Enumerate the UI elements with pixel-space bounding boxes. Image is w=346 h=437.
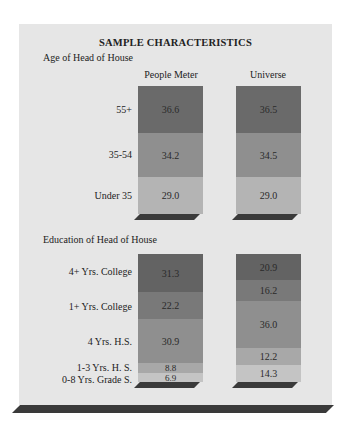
edu-segment-4plus-college: 31.3 bbox=[138, 254, 203, 292]
edu-label-1plus-college: 1+ Yrs. College bbox=[69, 301, 132, 312]
age-segment-under35: 29.0 bbox=[138, 177, 203, 214]
edu-segment-4plus-college: 20.9 bbox=[236, 254, 301, 280]
edu-label-1-3-yrs-hs: 1-3 Yrs. H. S. bbox=[77, 362, 132, 373]
edu-bar-universe: 20.9 16.2 36.0 12.2 14.3 bbox=[236, 254, 301, 382]
age-section-heading: Age of Head of House bbox=[43, 52, 133, 63]
edu-segment-1plus-college: 22.2 bbox=[138, 292, 203, 319]
age-segment-under35: 29.0 bbox=[236, 177, 301, 214]
age-segment-35-54: 34.2 bbox=[138, 133, 203, 177]
age-label-55plus: 55+ bbox=[116, 104, 132, 115]
edu-bar-people-meter: 31.3 22.2 30.9 8.8 6.9 bbox=[138, 254, 203, 382]
edu-segment-4-yrs-hs: 36.0 bbox=[236, 301, 301, 348]
edu-segment-0-8-yrs-grade: 6.9 bbox=[138, 373, 203, 382]
age-label-under35: Under 35 bbox=[95, 190, 133, 201]
edu-label-4plus-college: 4+ Yrs. College bbox=[69, 266, 132, 277]
edu-bar-base-universe bbox=[232, 382, 298, 388]
edu-segment-0-8-yrs-grade: 14.3 bbox=[236, 365, 301, 382]
age-bar-base-universe bbox=[232, 214, 298, 220]
edu-segment-1-3-yrs-hs: 12.2 bbox=[236, 348, 301, 365]
age-label-35-54: 35-54 bbox=[109, 149, 132, 160]
age-bar-people-meter: 36.6 34.2 29.0 bbox=[138, 86, 203, 214]
edu-segment-1plus-college: 16.2 bbox=[236, 280, 301, 301]
column-header-people-meter: People Meter bbox=[138, 69, 204, 80]
education-section-heading: Education of Head of House bbox=[43, 234, 157, 245]
age-segment-35-54: 34.5 bbox=[236, 133, 301, 177]
column-header-universe: Universe bbox=[235, 69, 301, 80]
edu-bar-base-people-meter bbox=[134, 382, 200, 388]
age-segment-55plus: 36.6 bbox=[138, 86, 203, 133]
edu-segment-4-yrs-hs: 30.9 bbox=[138, 319, 203, 363]
age-bar-universe: 36.5 34.5 29.0 bbox=[236, 86, 301, 214]
edu-segment-1-3-yrs-hs: 8.8 bbox=[138, 363, 203, 373]
panel-base-slab bbox=[12, 405, 334, 413]
edu-label-0-8-yrs-grade: 0-8 Yrs. Grade S. bbox=[62, 374, 132, 385]
edu-label-4-yrs-hs: 4 Yrs. H.S. bbox=[88, 336, 132, 347]
age-bar-base-people-meter bbox=[134, 214, 200, 220]
age-segment-55plus: 36.5 bbox=[236, 86, 301, 133]
chart-title: SAMPLE CHARACTERISTICS bbox=[19, 37, 332, 48]
